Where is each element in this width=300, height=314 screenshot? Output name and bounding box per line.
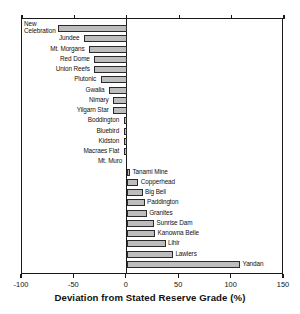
bar-label: Lihir xyxy=(168,239,180,246)
bar xyxy=(94,56,126,63)
x-tick-label: 100 xyxy=(224,280,236,289)
x-tick-top xyxy=(74,15,75,19)
bar-label: Mt. Muro xyxy=(24,157,122,164)
bar xyxy=(127,220,154,227)
bar-label: Boddington xyxy=(24,116,119,123)
bar-label: Union Reefs xyxy=(24,65,90,72)
x-tick xyxy=(282,274,283,278)
bar-label-line: New xyxy=(24,20,56,27)
bar xyxy=(124,117,127,124)
bar-label: Copperhead xyxy=(141,178,175,185)
bar xyxy=(127,199,145,206)
bar xyxy=(58,25,127,32)
x-tick xyxy=(178,274,179,278)
bar xyxy=(124,128,127,135)
bar xyxy=(127,189,143,196)
bar xyxy=(124,148,127,155)
bar-label: Yandan xyxy=(242,260,263,267)
bar-row: Yandan xyxy=(22,259,282,270)
bar xyxy=(109,87,127,94)
x-tick-label: 0 xyxy=(124,280,128,289)
chart-figure: NewCelebrationJundeeMt. MorgansRed DomeU… xyxy=(0,0,300,314)
bar xyxy=(127,240,166,247)
bar xyxy=(101,76,127,83)
bar-label: Nimary xyxy=(24,96,109,103)
x-tick xyxy=(125,274,126,278)
bar xyxy=(127,179,139,186)
bar xyxy=(124,138,127,145)
x-tick-label: -100 xyxy=(14,280,29,289)
bar xyxy=(94,66,126,73)
bar xyxy=(127,169,130,176)
bar-label: Kanowna Belle xyxy=(158,229,199,236)
bar-label: Lawlers xyxy=(175,250,196,257)
bar-label: Red Dome xyxy=(24,55,90,62)
bar-label: Sunrise Dam xyxy=(157,219,193,226)
bar xyxy=(127,210,147,217)
bar-label: Bluebird xyxy=(24,127,119,134)
bar-label: Kidston xyxy=(24,137,119,144)
bar-label: Jundee xyxy=(24,34,79,41)
bar-label: Gwalia xyxy=(24,86,104,93)
bar xyxy=(113,97,127,104)
x-tick-top xyxy=(179,15,180,19)
x-tick-label: 150 xyxy=(277,280,289,289)
x-tick-top xyxy=(231,15,232,19)
bar-label: Granites xyxy=(149,209,172,216)
x-tick-label: -50 xyxy=(68,280,79,289)
bar-label: Big Bell xyxy=(145,188,166,195)
bar xyxy=(127,230,155,237)
bar xyxy=(113,107,127,114)
x-tick-top xyxy=(283,15,284,19)
bar-label: Paddington xyxy=(147,198,178,205)
bar-label: Tanami Mine xyxy=(133,168,168,175)
x-tick-top xyxy=(126,15,127,19)
x-axis-title: Deviation from Stated Reserve Grade (%) xyxy=(0,292,300,303)
x-tick-label: 50 xyxy=(174,280,182,289)
bar-label: Yilgarn Star xyxy=(24,106,109,113)
bar xyxy=(127,261,240,268)
bar-label: Mt. Morgans xyxy=(24,45,85,52)
bar xyxy=(84,35,127,42)
x-tick xyxy=(73,274,74,278)
bar xyxy=(89,46,127,53)
bar xyxy=(127,251,173,258)
x-tick xyxy=(230,274,231,278)
bar-label: Plutonic xyxy=(24,75,96,82)
bar-label: Macraes Flat xyxy=(24,147,119,154)
x-tick xyxy=(20,274,21,278)
plot-area: NewCelebrationJundeeMt. MorgansRed DomeU… xyxy=(21,18,283,274)
x-tick-top xyxy=(21,15,22,19)
